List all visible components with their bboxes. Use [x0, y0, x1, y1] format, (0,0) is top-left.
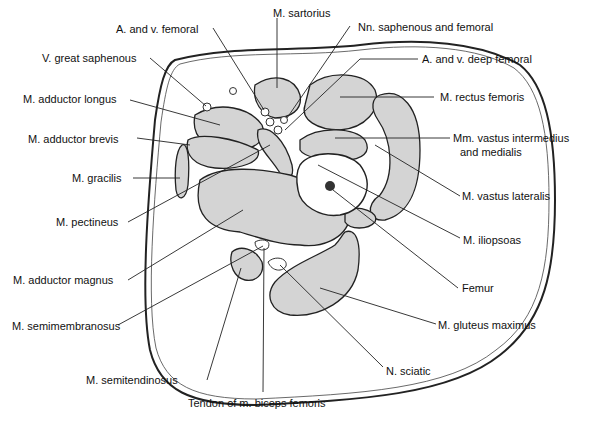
tendon-biceps: [255, 240, 269, 250]
label-semimembranosus: M. semimembranosus: [12, 320, 121, 332]
muscle-semimembranosus: [231, 248, 263, 280]
thigh-cross-section-diagram: M. sartorius A. and v. femoral Nn. saphe…: [0, 0, 597, 426]
label-vastus-lateralis: M. vastus lateralis: [462, 190, 551, 202]
label-vastus-intermedius-2: and medialis: [460, 146, 522, 158]
label-rectus-femoris: M. rectus femoris: [440, 91, 525, 103]
label-adductor-longus: M. adductor longus: [23, 93, 117, 105]
label-adductor-magnus: M. adductor magnus: [13, 274, 114, 286]
vessel-femoral-v: [266, 118, 274, 126]
label-sartorius: M. sartorius: [273, 7, 331, 19]
label-biceps-tendon: Tendon of m. biceps femoris: [188, 397, 326, 409]
label-gluteus-maximus: M. gluteus maximus: [438, 319, 536, 331]
label-adductor-brevis: M. adductor brevis: [28, 133, 119, 145]
label-deep-femoral: A. and v. deep femoral: [422, 53, 532, 65]
femur-marrow: [325, 181, 335, 191]
label-nn-saphenous-femoral: Nn. saphenous and femoral: [358, 21, 493, 33]
label-vastus-intermedius-1: Mm. vastus intermedius: [453, 132, 570, 144]
vessel-femoral-a: [261, 108, 269, 116]
muscle-rectus-femoris: [304, 75, 376, 130]
label-femur: Femur: [462, 282, 494, 294]
label-semitendinosus: M. semitendinosus: [86, 374, 178, 386]
label-iliopsoas: M. iliopsoas: [463, 234, 522, 246]
label-pectineus: M. pectineus: [56, 216, 119, 228]
label-great-saphenous: V. great saphenous: [42, 52, 137, 64]
label-femoral-av: A. and v. femoral: [116, 23, 198, 35]
vessel-deep-femoral-a: [274, 126, 282, 134]
label-gracilis: M. gracilis: [72, 172, 122, 184]
vessel-small: [230, 88, 237, 95]
vessel-deep-femoral-v: [281, 117, 288, 124]
label-sciatic: N. sciatic: [386, 365, 431, 377]
